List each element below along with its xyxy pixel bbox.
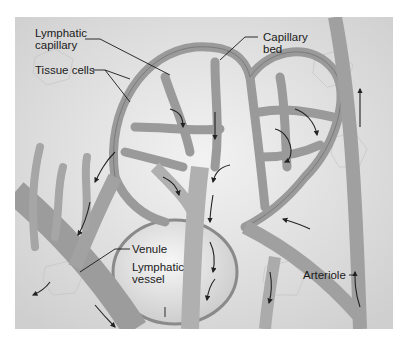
label-lymphatic-capillary: Lymphatic capillary — [35, 27, 87, 51]
label-venule: Venule — [132, 243, 167, 255]
lymphatic-system-illustration: Lymphatic capillary Tissue cells Capilla… — [15, 17, 393, 329]
lymphatic-vessel-trunk — [190, 167, 200, 329]
label-tissue-cells: Tissue cells — [35, 64, 95, 76]
label-capillary-bed: Capillary bed — [263, 31, 308, 55]
label-arteriole: Arteriole — [303, 269, 346, 281]
label-lymphatic-vessel: Lymphatic vessel — [132, 261, 184, 285]
